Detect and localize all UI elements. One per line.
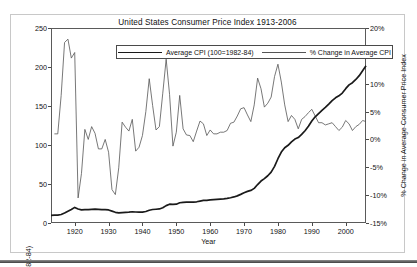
legend-label-cpi: Average CPI (100=1982-84) bbox=[166, 49, 254, 56]
y-tick-left: 100 bbox=[35, 141, 47, 150]
chart-title: United States Consumer Price Index 1913-… bbox=[11, 18, 404, 27]
x-tick-mark bbox=[346, 223, 347, 226]
legend-swatch-pct-icon bbox=[262, 52, 306, 53]
y-tick-left: 250 bbox=[35, 24, 47, 33]
y-tick-right-mark bbox=[366, 167, 369, 168]
x-tick-mark bbox=[244, 223, 245, 226]
x-tick: 1950 bbox=[168, 227, 184, 236]
legend-entry-pct: % Change in Average CPI bbox=[262, 49, 391, 56]
y-tick-left-mark bbox=[48, 223, 51, 224]
chart-figure: United States Consumer Price Index 1913-… bbox=[10, 14, 405, 253]
x-tick-mark bbox=[142, 223, 143, 226]
x-tick: 2000 bbox=[338, 227, 354, 236]
y-tick-right: -15% bbox=[370, 219, 387, 228]
legend-label-pct: % Change in Average CPI bbox=[310, 49, 391, 56]
y-tick-right-mark bbox=[366, 195, 369, 196]
y-tick-right-mark bbox=[366, 28, 369, 29]
y-tick-left: 200 bbox=[35, 63, 47, 72]
y-axis-right-label: % Change in Average Consumer Price Index bbox=[399, 28, 409, 223]
x-tick-mark bbox=[109, 223, 110, 226]
x-tick-mark bbox=[312, 223, 313, 226]
x-tick-mark bbox=[210, 223, 211, 226]
x-tick: 1960 bbox=[202, 227, 218, 236]
y-tick-right-mark bbox=[366, 112, 369, 113]
x-tick: 1980 bbox=[270, 227, 286, 236]
page-bottom-rule bbox=[0, 260, 417, 263]
plot-area: 050100150200250 -15%-10%-5%0%5%10%15%20%… bbox=[51, 28, 366, 223]
pct-change-line bbox=[54, 39, 366, 198]
y-tick-right: 20% bbox=[370, 24, 384, 33]
x-tick: 1920 bbox=[67, 227, 83, 236]
legend-entry-cpi: Average CPI (100=1982-84) bbox=[118, 49, 254, 56]
y-tick-right-mark bbox=[366, 139, 369, 140]
y-tick-right-mark bbox=[366, 223, 369, 224]
y-tick-left: 0 bbox=[43, 219, 47, 228]
x-tick-mark bbox=[176, 223, 177, 226]
y-tick-right: -5% bbox=[370, 163, 383, 172]
y-tick-right: 0% bbox=[370, 135, 380, 144]
y-tick-right: -10% bbox=[370, 191, 387, 200]
y-tick-right: 10% bbox=[370, 79, 384, 88]
legend-swatch-cpi-icon bbox=[118, 52, 162, 53]
y-tick-right-mark bbox=[366, 84, 369, 85]
x-tick-mark bbox=[278, 223, 279, 226]
y-tick-left: 150 bbox=[35, 102, 47, 111]
x-tick-mark bbox=[75, 223, 76, 226]
x-tick: 1970 bbox=[236, 227, 252, 236]
x-axis-label: Year bbox=[201, 237, 216, 246]
x-tick: 1940 bbox=[134, 227, 150, 236]
chart-legend: Average CPI (100=1982-84) % Change in Av… bbox=[116, 45, 393, 59]
x-tick: 1930 bbox=[101, 227, 117, 236]
x-tick: 1990 bbox=[304, 227, 320, 236]
y-tick-left: 50 bbox=[39, 180, 47, 189]
cpi-line bbox=[51, 66, 366, 216]
y-tick-right: 5% bbox=[370, 107, 380, 116]
